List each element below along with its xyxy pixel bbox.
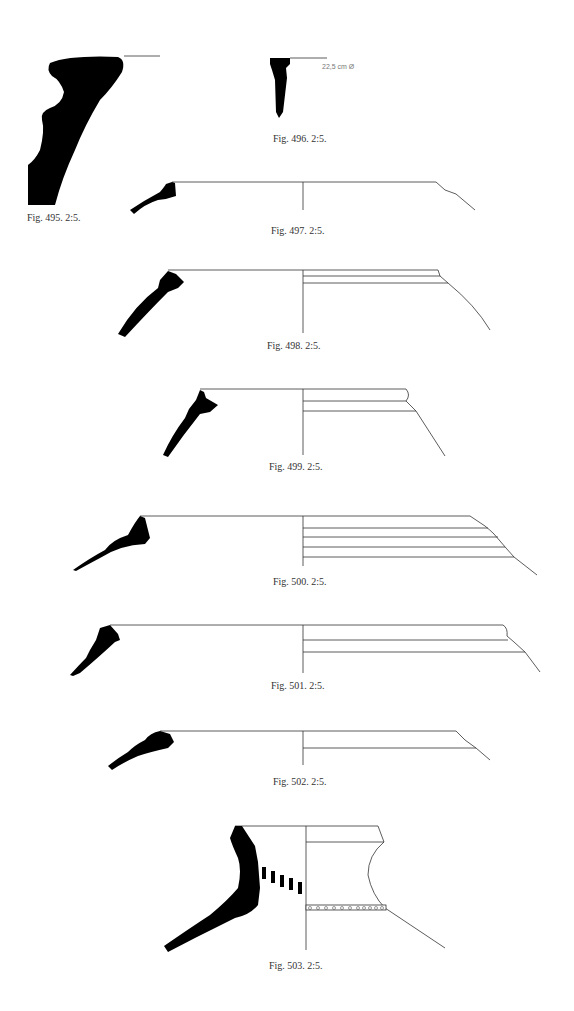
caption-fig-499: Fig. 499. 2:5. (269, 461, 323, 472)
caption-fig-498: Fig. 498. 2:5. (267, 340, 321, 351)
pottery-plate: 22,5 cm Ø Fig. 495. 2:5. Fig. 496. 2:5. … (0, 0, 574, 1011)
caption-fig-502: Fig. 502. 2:5. (273, 776, 327, 787)
diameter-label: 22,5 cm Ø (322, 63, 354, 70)
caption-fig-497: Fig. 497. 2:5. (271, 225, 325, 236)
caption-fig-500: Fig. 500. 2:5. (273, 576, 327, 587)
caption-fig-496: Fig. 496. 2:5. (273, 133, 327, 144)
caption-fig-495: Fig. 495. 2:5. (27, 212, 81, 223)
pottery-drawings (0, 0, 574, 1011)
caption-fig-501: Fig. 501. 2:5. (271, 680, 325, 691)
caption-fig-503: Fig. 503. 2:5. (269, 960, 323, 971)
